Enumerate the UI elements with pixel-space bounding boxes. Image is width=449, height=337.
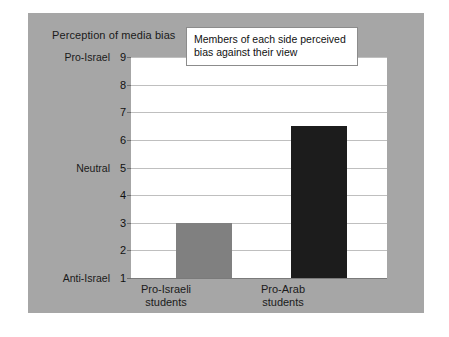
y-axis-anchor-labels: Pro-Israel Neutral Anti-Israel	[52, 13, 110, 313]
annotation-line2: bias against their view	[194, 46, 350, 59]
gridline-5	[131, 168, 387, 169]
gridline-6	[131, 140, 387, 141]
annotation-line1: Members of each side perceived	[194, 33, 350, 46]
y-tick-4: 4	[106, 189, 126, 201]
bar-pro-israeli-students	[176, 223, 232, 278]
y-anchor-neutral: Neutral	[76, 162, 110, 174]
y-tick-2: 2	[106, 244, 126, 256]
y-tick-7: 7	[106, 106, 126, 118]
x-label-pro-arab-line2: students	[228, 296, 338, 309]
gridline-4	[131, 195, 387, 196]
gridline-3	[131, 223, 387, 224]
chart-panel: Perception of media bias Pro-Israel Neut…	[28, 13, 424, 313]
y-tick-6: 6	[106, 134, 126, 146]
y-anchor-pro-israel: Pro-Israel	[64, 51, 110, 63]
x-label-pro-israeli-line1: Pro-Israeli	[111, 283, 221, 296]
y-anchor-anti-israel: Anti-Israel	[63, 272, 110, 284]
annotation-callout: Members of each side perceived bias agai…	[186, 27, 358, 66]
gridline-baseline-1	[131, 278, 387, 279]
x-label-pro-israeli-students: Pro-Israeli students	[111, 283, 221, 309]
x-label-pro-arab-line1: Pro-Arab	[228, 283, 338, 296]
y-tick-3: 3	[106, 217, 126, 229]
slide-canvas: Perception of media bias Pro-Israel Neut…	[0, 0, 449, 337]
x-label-pro-arab-students: Pro-Arab students	[228, 283, 338, 309]
gridline-8	[131, 85, 387, 86]
y-tick-9: 9	[106, 51, 126, 63]
x-label-pro-israeli-line2: students	[111, 296, 221, 309]
y-tick-5: 5	[106, 162, 126, 174]
y-tick-8: 8	[106, 79, 126, 91]
gridline-2	[131, 250, 387, 251]
plot-area	[131, 57, 387, 278]
gridline-7	[131, 112, 387, 113]
bar-pro-arab-students	[291, 126, 347, 278]
